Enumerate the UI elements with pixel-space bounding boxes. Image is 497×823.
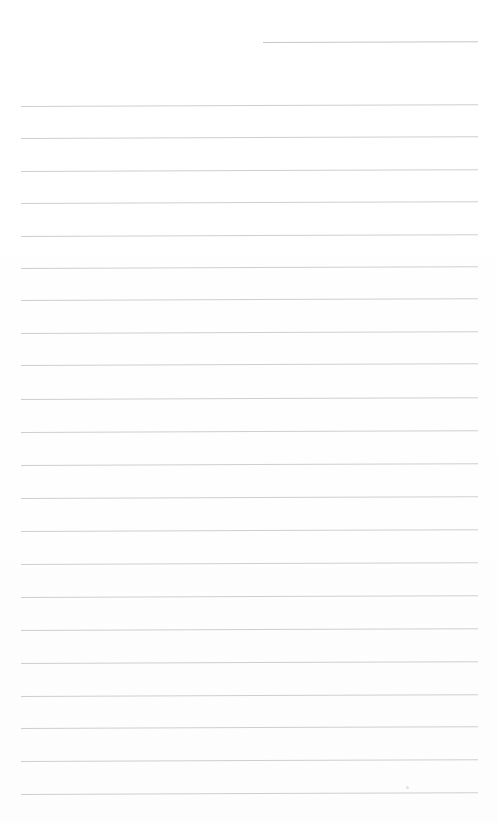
rule-line [21,104,478,107]
rule-line [21,363,478,366]
rule-line [21,331,478,334]
rule-line [21,529,478,532]
header-rule-line [263,41,478,43]
rule-line [21,201,478,204]
rule-line [21,595,478,598]
rule-line [21,430,478,433]
rule-line [21,234,478,237]
lined-paper-page [0,0,497,823]
rule-line [21,463,478,466]
rule-line [21,792,478,795]
rule-line [21,726,478,729]
rule-line [21,562,478,565]
rule-line [21,661,478,664]
rule-line [21,299,478,302]
rule-line [21,397,478,400]
rule-line [21,628,478,631]
rule-line [21,169,478,172]
rule-line [21,759,478,762]
rule-line [21,694,478,697]
rule-line [21,137,478,140]
rule-line [21,496,478,499]
rule-line [21,266,478,269]
scan-speck-mark [406,786,409,789]
writing-area[interactable] [0,0,497,823]
